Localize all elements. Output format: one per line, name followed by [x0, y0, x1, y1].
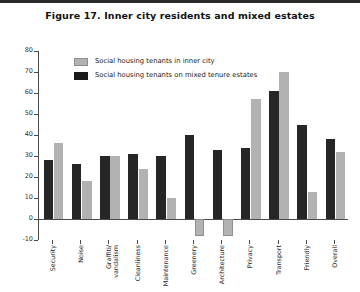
- x-axis-tick-mark: [249, 240, 250, 244]
- y-axis-tick-label: 70: [25, 67, 33, 75]
- bar: [167, 198, 177, 219]
- y-axis-tick-label: -10: [22, 235, 33, 243]
- bar: [326, 139, 336, 219]
- bar: [279, 72, 289, 219]
- y-axis-tick-label: 50: [25, 109, 33, 117]
- chart-title: Figure 17. Inner city residents and mixe…: [0, 10, 360, 21]
- bar: [44, 160, 54, 219]
- x-axis-category-label: Maintenance: [163, 245, 170, 286]
- x-axis-category-label: Overall: [332, 245, 339, 268]
- x-axis-tick-mark: [278, 240, 279, 244]
- legend-item-inner-city: Social housing tenants in inner city: [74, 57, 274, 66]
- bar: [213, 150, 223, 219]
- legend-swatch-inner-city: [74, 58, 88, 66]
- bar: [100, 156, 110, 219]
- x-axis-category-label: Noise: [78, 245, 85, 263]
- legend-label-mixed-estates: Social housing tenants on mixed tenure e…: [95, 71, 257, 79]
- x-axis-tick-mark: [108, 240, 109, 244]
- x-axis-category-label: Graffiti/ vandalism: [106, 245, 120, 278]
- bar: [223, 219, 233, 236]
- bar: [185, 135, 195, 219]
- x-axis-category-labels: SecurityNoiseGraffiti/ vandalismCleanlin…: [38, 245, 348, 292]
- y-axis-tick-label: 20: [25, 172, 33, 180]
- x-axis-category-label: Cleanliness: [135, 245, 142, 281]
- bar: [308, 192, 318, 219]
- x-axis-category-label: Greenery: [191, 245, 198, 275]
- bar: [336, 152, 346, 219]
- figure-container: Figure 17. Inner city residents and mixe…: [0, 0, 360, 292]
- y-axis-tick-label: 40: [25, 130, 33, 138]
- y-axis-tick-label: 60: [25, 88, 33, 96]
- bar: [195, 219, 205, 236]
- y-axis-tick-label: 0: [29, 214, 33, 222]
- bar: [269, 91, 279, 219]
- x-axis-tick-mark: [137, 240, 138, 244]
- legend-label-inner-city: Social housing tenants in inner city: [95, 57, 215, 65]
- x-axis-category-label: Privacy: [247, 245, 254, 268]
- bar: [139, 169, 149, 219]
- y-axis-tick-label: 80: [25, 46, 33, 54]
- x-axis-category-label: Transport: [276, 245, 283, 275]
- bar: [54, 143, 64, 219]
- bar: [128, 154, 138, 219]
- x-axis-category-label: Security: [50, 245, 57, 271]
- bar: [156, 156, 166, 219]
- bar: [82, 181, 92, 219]
- chart-legend: Social housing tenants in inner city Soc…: [74, 57, 274, 85]
- y-axis-tick-label: 30: [25, 151, 33, 159]
- x-axis-category-label: Architecture: [219, 245, 226, 284]
- x-axis-tick-mark: [165, 240, 166, 244]
- x-axis-category-label: Friendly: [304, 245, 311, 270]
- bar: [297, 125, 307, 220]
- bar: [110, 156, 120, 219]
- bar: [251, 99, 261, 219]
- x-axis-tick-mark: [52, 240, 53, 244]
- y-axis-tick-label: 10: [25, 193, 33, 201]
- x-axis-tick-mark: [80, 240, 81, 244]
- top-rule-divider: [0, 0, 360, 3]
- legend-item-mixed-estates: Social housing tenants on mixed tenure e…: [74, 71, 274, 80]
- x-axis-tick-mark: [306, 240, 307, 244]
- bar: [241, 148, 251, 219]
- x-axis-tick-mark: [334, 240, 335, 244]
- legend-swatch-mixed-estates: [74, 72, 88, 80]
- bar: [72, 164, 82, 219]
- x-axis-tick-mark: [193, 240, 194, 244]
- x-axis-tick-mark: [221, 240, 222, 244]
